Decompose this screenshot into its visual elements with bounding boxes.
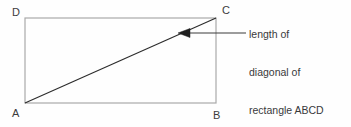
- vertex-label-a: A: [12, 108, 19, 119]
- annotation-caption: length of diagonal of rectangle ABCD = l…: [249, 3, 349, 127]
- annotation-line: length of: [249, 28, 349, 41]
- arrowhead-icon: [178, 29, 190, 38]
- vertex-label-b: B: [213, 110, 220, 121]
- vertex-label-d: D: [12, 7, 20, 18]
- annotation-line: diagonal of: [249, 66, 349, 79]
- diagram-canvas: D C A B length of diagonal of rectangle …: [0, 0, 351, 127]
- annotation-line: rectangle ABCD: [249, 104, 349, 117]
- vertex-label-c: C: [222, 5, 230, 16]
